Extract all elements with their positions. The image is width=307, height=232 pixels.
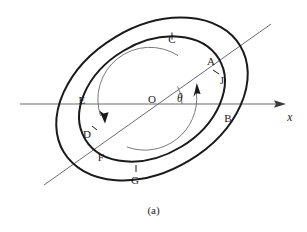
label-G: G (131, 175, 139, 186)
tick-J (213, 70, 219, 74)
label-F: F (98, 152, 104, 163)
label-x-axis: x (287, 112, 292, 124)
clockwise-arc-path (98, 47, 178, 116)
tick-D (92, 126, 97, 130)
figure-panel: C A J E O B D F G x θ (a) (0, 0, 307, 232)
figure-caption: (a) (0, 204, 307, 216)
figure-drawing (0, 0, 307, 232)
label-J: J (220, 75, 224, 86)
label-theta: θ (177, 93, 183, 105)
outer-ellipse (27, 0, 278, 214)
label-O-origin: O (148, 94, 156, 105)
label-C: C (168, 34, 176, 45)
label-B: B (224, 113, 232, 124)
clockwise-direction-arc (98, 47, 178, 123)
label-D: D (83, 129, 91, 140)
label-E: E (79, 95, 86, 106)
label-A: A (207, 56, 215, 67)
clockwise-arrowhead (99, 110, 108, 123)
